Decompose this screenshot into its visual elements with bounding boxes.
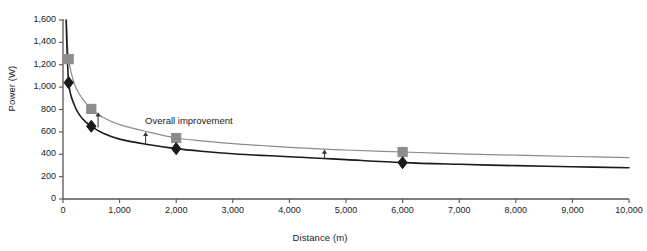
x-tick-label: 9,000 bbox=[542, 205, 602, 215]
x-tick-label: 5,000 bbox=[316, 205, 376, 215]
y-tick-label: 1,000 bbox=[10, 81, 56, 91]
x-tick-label: 1,000 bbox=[90, 205, 150, 215]
x-tick-label: 0 bbox=[33, 205, 93, 215]
y-tick-label: 400 bbox=[10, 148, 56, 158]
y-tick-label: 200 bbox=[10, 171, 56, 181]
x-tick-label: 6,000 bbox=[373, 205, 433, 215]
x-tick-label: 2,000 bbox=[146, 205, 206, 215]
x-tick-label: 10,000 bbox=[599, 205, 647, 215]
series-line-upper-curve bbox=[66, 20, 629, 158]
x-tick-label: 3,000 bbox=[203, 205, 263, 215]
improvement-arrow-head bbox=[322, 150, 327, 154]
y-tick-label: 1,400 bbox=[10, 36, 56, 46]
y-tick-label: 0 bbox=[10, 193, 56, 203]
data-marker-square bbox=[398, 147, 407, 156]
y-tick-label: 1,600 bbox=[10, 14, 56, 24]
data-marker-diamond bbox=[172, 143, 181, 155]
data-marker-diamond bbox=[398, 157, 407, 169]
x-tick-label: 7,000 bbox=[429, 205, 489, 215]
y-tick-label: 800 bbox=[10, 104, 56, 114]
y-tick-label: 600 bbox=[10, 126, 56, 136]
x-tick-label: 4,000 bbox=[259, 205, 319, 215]
data-marker-square bbox=[87, 104, 96, 113]
y-tick-label: 1,200 bbox=[10, 59, 56, 69]
data-marker-diamond bbox=[87, 120, 96, 132]
data-marker-diamond bbox=[64, 77, 73, 89]
overall-improvement-label: Overall improvement bbox=[145, 115, 233, 126]
series-line-lower-curve bbox=[66, 20, 629, 168]
improvement-arrow-head bbox=[143, 132, 148, 136]
data-marker-square bbox=[172, 133, 181, 142]
x-tick-label: 8,000 bbox=[486, 205, 546, 215]
data-marker-square bbox=[64, 55, 73, 64]
